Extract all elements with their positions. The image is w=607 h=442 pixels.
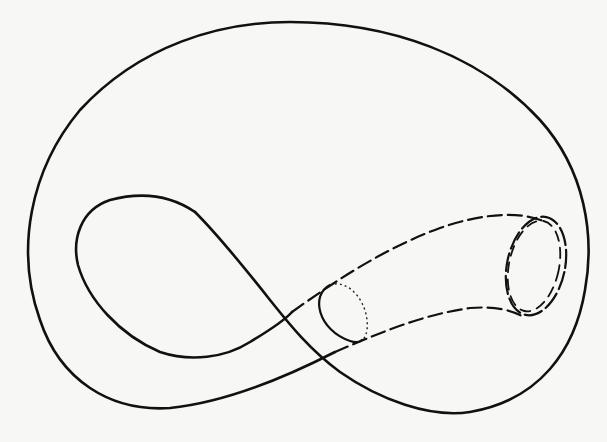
small-opening-back [330, 284, 367, 340]
diagram-svg [0, 0, 607, 442]
klein-bottle-diagram [0, 0, 607, 442]
small-opening-front [319, 285, 362, 342]
inner-loop-curve [76, 196, 292, 358]
tube-lower-edge [335, 307, 522, 352]
outer-body-curve [28, 22, 588, 413]
